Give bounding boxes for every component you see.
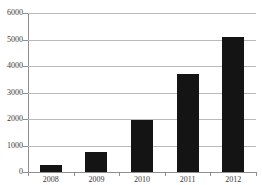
x-tick-end (256, 172, 257, 176)
bar-2011 (177, 74, 199, 172)
y-tick-4000 (23, 66, 28, 67)
y-tick-label-4000: 4000 (1, 62, 23, 70)
x-tick-label-2012: 2012 (211, 175, 255, 184)
y-tick-label-1000: 1000 (1, 142, 23, 150)
y-tick-3000 (23, 93, 28, 94)
y-axis-labels: 0100020003000400050006000 (0, 0, 23, 185)
bar-2008 (40, 165, 62, 172)
y-tick-label-5000: 5000 (1, 36, 23, 44)
y-tick-label-3000: 3000 (1, 89, 23, 97)
bar-chart: 0100020003000400050006000 20082009201020… (0, 0, 262, 185)
x-tick-label-2010: 2010 (120, 175, 164, 184)
gridline-0 (28, 172, 256, 173)
y-tick-label-0: 0 (1, 168, 23, 176)
gridline-6000 (28, 13, 256, 14)
x-tick-label-2011: 2011 (166, 175, 210, 184)
x-tick-label-2009: 2009 (74, 175, 118, 184)
y-tick-label-6000: 6000 (1, 9, 23, 17)
x-tick-label-2008: 2008 (29, 175, 73, 184)
y-tick-5000 (23, 40, 28, 41)
bar-2012 (222, 37, 244, 172)
bar-2010 (131, 120, 153, 172)
chart-title (0, 0, 262, 7)
y-tick-1000 (23, 146, 28, 147)
bar-2009 (85, 152, 107, 172)
y-tick-label-2000: 2000 (1, 115, 23, 123)
plot-area (28, 13, 256, 172)
y-tick-2000 (23, 119, 28, 120)
y-tick-6000 (23, 13, 28, 14)
